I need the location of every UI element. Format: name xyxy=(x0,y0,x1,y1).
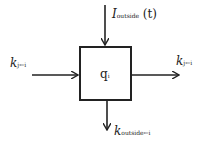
compartment-diagram: Ioutside (t) kj←i qi kj←i koutside←i xyxy=(0,0,203,148)
label-sub: outside xyxy=(117,12,139,19)
label-sub: outside←i xyxy=(121,129,150,136)
box-label: qi xyxy=(100,68,110,80)
label-sub: j←i xyxy=(183,59,192,66)
label-suffix: (t) xyxy=(143,7,157,21)
top-inflow-label: Ioutside (t) xyxy=(112,8,157,20)
label-sub: j←i xyxy=(17,61,26,68)
right-outflow-label: kj←i xyxy=(176,55,192,67)
left-inflow-label: kj←i xyxy=(10,57,26,69)
label-main: q xyxy=(100,67,108,81)
bottom-outflow-label: koutside←i xyxy=(114,125,151,137)
label-sub: i xyxy=(108,72,110,79)
